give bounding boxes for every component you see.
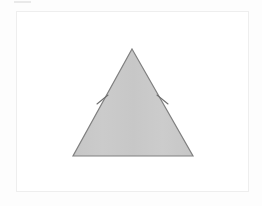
top-bar-fragment	[14, 1, 31, 3]
isosceles-triangle-shape	[73, 49, 193, 156]
screenshot-canvas	[0, 0, 262, 206]
figure-card	[16, 11, 249, 192]
triangle-diagram	[17, 12, 250, 193]
